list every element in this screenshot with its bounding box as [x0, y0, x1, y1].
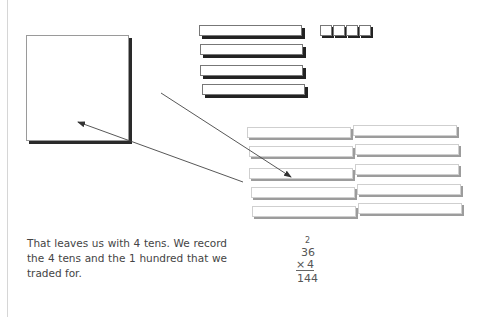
arrow-to-tens-icon: [161, 93, 291, 177]
multiply-operator: ×: [296, 259, 305, 270]
multiplicand: 36: [301, 247, 315, 258]
multiplier: 4: [307, 259, 314, 270]
product: 144: [297, 273, 318, 284]
arrow-to-hundred-icon: [78, 122, 243, 182]
carry-digit: 2: [305, 237, 310, 245]
caption-text: That leaves us with 4 tens. We record th…: [27, 236, 227, 281]
sum-rule: [296, 270, 314, 271]
